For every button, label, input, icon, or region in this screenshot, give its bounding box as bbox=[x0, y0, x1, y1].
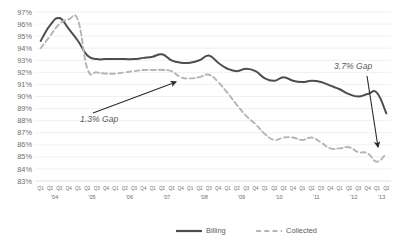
annotation-arrow-gap-2 bbox=[367, 76, 378, 147]
y-axis-tick-label: 94% bbox=[17, 44, 32, 53]
x-axis-tick-label: Q3 bbox=[355, 186, 362, 191]
x-axis-tick-label: Q2 bbox=[346, 186, 353, 191]
y-axis-labels: 97%96%95%94%93%92%91%90%89%88%87%86%85%8… bbox=[17, 8, 32, 186]
x-axis-tick-label: Q2 bbox=[159, 186, 166, 191]
x-axis-year-label: '12 bbox=[350, 194, 357, 200]
x-axis-tick-label: Q4 bbox=[140, 186, 147, 191]
x-axis-year-label: '11 bbox=[313, 194, 320, 200]
annotations-group: 1.3% Gap3.7% Gap bbox=[80, 61, 378, 147]
y-axis-tick-label: 95% bbox=[17, 32, 32, 41]
x-axis-tick-label: Q2 bbox=[47, 186, 54, 191]
x-axis-tick-label: Q4 bbox=[327, 186, 334, 191]
x-axis-tick-label: Q1 bbox=[150, 186, 157, 191]
x-axis-tick-label: Q4 bbox=[252, 186, 259, 191]
y-axis-tick-label: 93% bbox=[17, 56, 32, 65]
y-axis-tick-label: 91% bbox=[17, 80, 32, 89]
x-axis-tick-label: Q3 bbox=[206, 186, 213, 191]
x-axis-tick-label: Q4 bbox=[290, 186, 297, 191]
x-axis-tick-label: Q3 bbox=[56, 186, 63, 191]
y-axis-tick-label: 86% bbox=[17, 140, 32, 149]
y-axis-tick-label: 83% bbox=[17, 177, 32, 186]
x-axis-tick-label: Q3 bbox=[280, 186, 287, 191]
x-axis-year-label: '09 bbox=[238, 194, 245, 200]
x-axis-tick-label: Q1 bbox=[224, 186, 231, 191]
gridlines bbox=[36, 12, 391, 181]
x-axis-tick-label: Q1 bbox=[337, 186, 344, 191]
x-axis-year-label: '04 bbox=[51, 194, 58, 200]
line-chart: 97%96%95%94%93%92%91%90%89%88%87%86%85%8… bbox=[0, 0, 407, 248]
x-axis-tick-label: Q2 bbox=[84, 186, 91, 191]
x-axis-tick-label: Q4 bbox=[178, 186, 185, 191]
x-axis-tick-label: Q2 bbox=[196, 186, 203, 191]
data-series-group bbox=[41, 15, 387, 162]
x-axis-tick-label: Q2 bbox=[309, 186, 316, 191]
x-axis-tick-label: Q3 bbox=[131, 186, 138, 191]
x-axis-tick-label: Q1 bbox=[187, 186, 194, 191]
chart-legend: BillingCollected bbox=[176, 226, 317, 235]
x-axis-tick-label: Q4 bbox=[66, 186, 73, 191]
x-axis-tick-label: Q3 bbox=[168, 186, 175, 191]
x-axis-year-label: '10 bbox=[275, 194, 282, 200]
y-axis-tick-label: 92% bbox=[17, 68, 32, 77]
y-axis-tick-label: 97% bbox=[17, 8, 32, 17]
x-axis-tick-label: Q2 bbox=[383, 186, 390, 191]
x-axis-year-labels: '04'05'06'07'08'09'10'11'12'13 bbox=[51, 194, 385, 200]
x-axis-tick-label: Q2 bbox=[271, 186, 278, 191]
y-axis-tick-label: 96% bbox=[17, 20, 32, 29]
x-axis-tick-label: Q1 bbox=[75, 186, 82, 191]
y-axis-tick-label: 88% bbox=[17, 116, 32, 125]
legend-label-billing: Billing bbox=[206, 226, 226, 235]
x-axis-tick-label: Q1 bbox=[299, 186, 306, 191]
x-axis-tick-label: Q2 bbox=[234, 186, 241, 191]
x-axis-tick-label: Q1 bbox=[112, 186, 119, 191]
x-axis-tick-label: Q1 bbox=[38, 186, 45, 191]
series-line-collected bbox=[41, 15, 387, 162]
x-axis-year-label: '06 bbox=[126, 194, 133, 200]
x-axis-quarter-labels: Q1Q2Q3Q4Q1Q2Q3Q4Q1Q2Q3Q4Q1Q2Q3Q4Q1Q2Q3Q4… bbox=[38, 186, 390, 191]
legend-label-collected: Collected bbox=[286, 226, 317, 235]
x-axis-year-label: '08 bbox=[201, 194, 208, 200]
y-axis-tick-label: 89% bbox=[17, 104, 32, 113]
x-axis-tick-label: Q3 bbox=[94, 186, 101, 191]
y-axis-tick-label: 87% bbox=[17, 128, 32, 137]
x-axis-tick-label: Q3 bbox=[243, 186, 250, 191]
annotation-label-gap-2: 3.7% Gap bbox=[334, 61, 372, 71]
y-axis-tick-label: 90% bbox=[17, 92, 32, 101]
x-axis-year-label: '05 bbox=[88, 194, 95, 200]
x-axis-year-label: '07 bbox=[163, 194, 170, 200]
x-axis-tick-label: Q4 bbox=[103, 186, 110, 191]
x-axis-tick-label: Q4 bbox=[365, 186, 372, 191]
x-axis-tick-label: Q1 bbox=[262, 186, 269, 191]
x-axis-tick-label: Q3 bbox=[318, 186, 325, 191]
x-axis-tick-label: Q1 bbox=[374, 186, 381, 191]
y-axis-tick-label: 84% bbox=[17, 165, 32, 174]
x-axis-tick-label: Q4 bbox=[215, 186, 222, 191]
chart-container: 97%96%95%94%93%92%91%90%89%88%87%86%85%8… bbox=[0, 0, 407, 248]
annotation-label-gap-1: 1.3% Gap bbox=[80, 114, 118, 124]
y-axis-tick-label: 85% bbox=[17, 152, 32, 161]
x-axis-tick-label: Q2 bbox=[122, 186, 129, 191]
x-axis-year-label: '13 bbox=[378, 194, 385, 200]
